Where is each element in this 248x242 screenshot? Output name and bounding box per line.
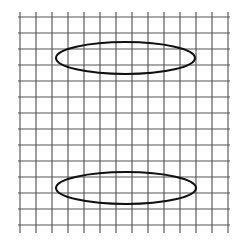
- figure-container: Two ellipses on a square grid: [0, 0, 248, 242]
- canvas-background: [0, 0, 248, 242]
- grid-and-ellipses-drawing: [0, 0, 248, 242]
